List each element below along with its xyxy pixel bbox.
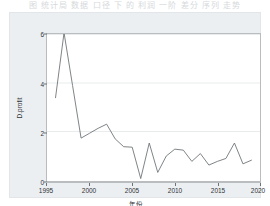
- x-tick-mark-2015: [218, 183, 219, 186]
- x-tick-mark-2000: [89, 183, 90, 186]
- x-axis-title: 年份: [10, 199, 262, 206]
- x-tick-mark-2020: [260, 183, 261, 186]
- x-tick-label-2005: 2005: [125, 187, 139, 194]
- cut-off-caption: 图 统计局 数据 口径 下 的 利润 一阶 差分 序列 走势: [0, 0, 270, 12]
- x-tick-label-1995: 1995: [39, 187, 53, 194]
- line-chart-svg: [47, 34, 260, 181]
- plot-area: 6 4 2 0: [46, 33, 261, 182]
- chart-screenshot: 图 统计局 数据 口径 下 的 利润 一阶 差分 序列 走势 6 4 2 0: [0, 0, 270, 206]
- x-tick-label-2010: 2010: [168, 187, 182, 194]
- graph-region: 6 4 2 0 1995 2000 2005 2010 2015 2020 年份…: [9, 12, 261, 198]
- x-tick-mark-1995: [46, 183, 47, 186]
- y-tick-label-0: 0: [40, 179, 44, 186]
- x-tick-label-2000: 2000: [82, 187, 96, 194]
- x-axis-line: [46, 182, 261, 183]
- data-line: [56, 34, 252, 179]
- y-tick-mark-4: [44, 83, 47, 84]
- y-axis-title: D.profit: [16, 98, 23, 119]
- gridlines: [47, 34, 260, 131]
- y-tick-mark-6: [44, 34, 47, 35]
- x-tick-mark-2005: [132, 183, 133, 186]
- y-tick-mark-2: [44, 132, 47, 133]
- y-tick-label-6: 6: [40, 31, 44, 38]
- x-tick-mark-2010: [175, 183, 176, 186]
- y-tick-label-2: 2: [40, 129, 44, 136]
- y-tick-label-4: 4: [40, 80, 44, 87]
- x-tick-label-2020: 2020: [251, 187, 265, 194]
- x-tick-label-2015: 2015: [211, 187, 225, 194]
